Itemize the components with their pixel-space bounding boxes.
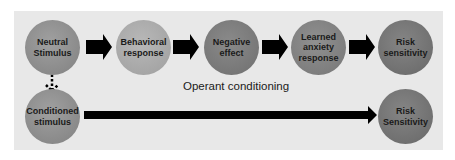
- node-risk-sensitivity-bottom: Risk Sensitivity: [378, 89, 433, 144]
- node-label: Risk sensitivity: [378, 37, 433, 58]
- node-label: Neutral Stimulus: [25, 37, 80, 58]
- node-label: Conditioned stimulus: [24, 106, 81, 127]
- arrow-negative-to-learned: [262, 34, 288, 60]
- node-label: Learned anxiety response: [291, 32, 346, 64]
- arrow-behavioral-to-negative: [173, 34, 199, 60]
- node-label: Risk Sensitivity: [378, 106, 433, 127]
- arrow-neutral-to-behavioral: [86, 34, 112, 60]
- operant-conditioning-label: Operant conditioning: [183, 80, 289, 92]
- node-behavioral-response: Behavioral response: [116, 20, 171, 75]
- arrow-conditioned-to-risk: [84, 106, 377, 124]
- node-risk-sensitivity-top: Risk sensitivity: [378, 20, 433, 75]
- arrow-learned-to-risk: [349, 34, 375, 60]
- node-neutral-stimulus: Neutral Stimulus: [25, 20, 80, 75]
- node-label: Behavioral response: [116, 37, 171, 58]
- node-negative-effect: Negative effect: [204, 20, 259, 75]
- node-learned-anxiety-response: Learned anxiety response: [291, 20, 346, 75]
- node-conditioned-stimulus: Conditioned stimulus: [25, 89, 80, 144]
- node-label: Negative effect: [204, 37, 259, 58]
